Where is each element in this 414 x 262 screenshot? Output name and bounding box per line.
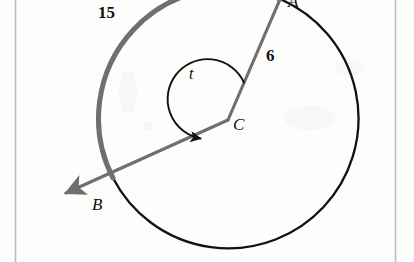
point-label-c: C bbox=[233, 116, 244, 133]
arc-length-label: 15 bbox=[98, 4, 115, 21]
radius-length-label: 6 bbox=[266, 47, 275, 64]
angle-label-t: t bbox=[189, 66, 193, 82]
point-label-b: B bbox=[92, 196, 102, 213]
point-label-a: A bbox=[288, 0, 298, 10]
circle-diagram bbox=[0, 0, 414, 262]
